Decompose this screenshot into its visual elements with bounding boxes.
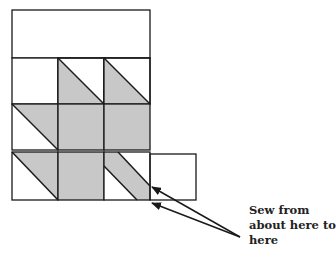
cell-half-triangle — [58, 58, 104, 104]
cell-diagonal-strip — [104, 152, 150, 200]
cell-plain — [12, 58, 58, 104]
arrow-sew-end — [152, 203, 240, 237]
cell-half-triangle — [12, 104, 58, 150]
caption-line: Sew from — [249, 203, 336, 218]
extra-cell — [150, 154, 196, 200]
row-3 — [12, 152, 150, 200]
caption-line: here — [249, 233, 336, 248]
cell-filled — [58, 104, 104, 150]
top-strip — [12, 10, 150, 58]
row-2 — [12, 104, 150, 150]
row-1 — [12, 58, 150, 104]
cell-filled — [104, 104, 150, 150]
sew-instruction-caption: Sew from about here to here — [249, 203, 336, 248]
cell-half-triangle — [104, 58, 150, 104]
cell-filled — [58, 152, 104, 200]
caption-line: about here to — [249, 218, 336, 233]
cell-half-triangle — [12, 152, 58, 200]
